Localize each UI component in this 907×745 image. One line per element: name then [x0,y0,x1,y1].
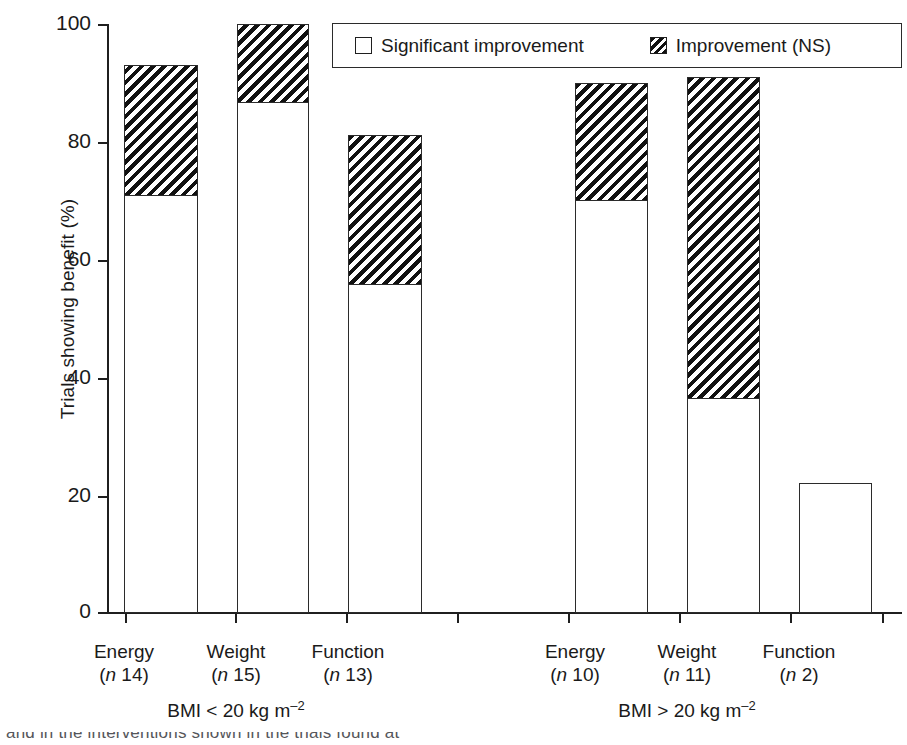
y-tick-label-0: 0 [79,599,91,623]
x-label-function-bmi-lt20: Function (n 13) [288,640,408,686]
y-axis-title: Trials showing benefit (%) [57,109,79,509]
y-axis-line [107,24,109,614]
x-label-weight-bmi-lt20: Weight (n 15) [176,640,296,686]
y-tick-label-60-wrap: 60 [98,260,99,262]
bar-energy-bmi-gt20[interactable] [575,83,648,613]
y-tick-0 [98,612,107,614]
legend-label-significant: Significant improvement [381,36,584,56]
x-label-name: Energy [64,640,184,663]
y-tick-label-60: 60 [68,247,91,271]
x-label-function-bmi-gt20: Function (n 2) [739,640,859,686]
y-tick-label-80-wrap: 80 [98,142,99,144]
bar-segment-ns [348,135,422,285]
bar-segment-ns [124,65,198,196]
group-label-bmi-lt20: BMI < 20 kg m–2 [116,700,356,722]
x-label-weight-bmi-gt20: Weight (n 11) [627,640,747,686]
y-tick-label-100: 100 [56,11,91,35]
x-tick-1 [235,614,237,623]
y-tick-100 [98,24,107,26]
bar-segment-ns [237,24,309,103]
y-tick-label-0-wrap: 0 [98,612,99,614]
x-label-n: (n 15) [176,663,296,686]
bar-weight-bmi-lt20[interactable] [237,24,309,613]
y-tick-20 [98,496,107,498]
bar-weight-bmi-gt20[interactable] [687,77,760,613]
y-tick-label-20-wrap: 20 [98,496,99,498]
y-tick-40 [98,378,107,380]
x-label-n: (n 11) [627,663,747,686]
bar-segment-significant [687,398,760,613]
x-label-n: (n 13) [288,663,408,686]
bar-function-bmi-gt20[interactable] [799,483,872,613]
y-tick-label-40-wrap: 40 [98,378,99,380]
group-label-text: BMI > 20 kg m [618,700,741,721]
y-tick-60 [98,260,107,262]
x-tick-5 [679,614,681,623]
y-tick-label-40: 40 [68,365,91,389]
bar-segment-significant [237,102,309,613]
x-tick-6 [790,614,792,623]
bar-segment-ns [687,77,760,399]
x-label-name: Function [739,640,859,663]
bar-segment-significant [124,195,198,613]
x-tick-7 [882,614,884,623]
x-label-energy-bmi-lt20: Energy (n 14) [64,640,184,686]
bar-segment-significant [575,200,648,613]
caption-partial-text: and in the interventions shown in the tr… [0,732,907,743]
bar-function-bmi-lt20[interactable] [348,135,422,613]
y-tick-label-20: 20 [68,483,91,507]
group-label-exponent: –2 [741,698,755,713]
bar-segment-significant [348,284,422,613]
bar-energy-bmi-lt20[interactable] [124,65,198,613]
x-label-name: Energy [515,640,635,663]
legend-label-ns: Improvement (NS) [676,36,831,56]
y-tick-80 [98,142,107,144]
y-tick-label-100-wrap: 100 [98,24,99,26]
x-tick-3 [457,614,459,623]
x-label-n: (n 14) [64,663,184,686]
legend-item-significant[interactable]: Significant improvement [355,36,584,56]
group-label-bmi-gt20: BMI > 20 kg m–2 [567,700,807,722]
stacked-bar-chart-figure: Trials showing benefit (%) 100 80 60 40 … [0,0,907,745]
x-label-name: Function [288,640,408,663]
x-label-name: Weight [627,640,747,663]
group-label-text: BMI < 20 kg m [167,700,290,721]
x-label-energy-bmi-gt20: Energy (n 10) [515,640,635,686]
x-label-name: Weight [176,640,296,663]
plot-area: 100 80 60 40 20 0 [107,24,902,613]
x-tick-4 [568,614,570,623]
x-axis-line [107,612,902,614]
legend-item-ns[interactable]: Improvement (NS) [650,36,831,56]
x-tick-0 [125,614,127,623]
legend-swatch-significant-icon [355,37,372,54]
x-label-n: (n 10) [515,663,635,686]
bar-segment-significant [799,483,872,613]
x-label-n: (n 2) [739,663,859,686]
legend-swatch-ns-icon [650,37,667,54]
caption-partial-line: and in the interventions shown in the tr… [0,732,907,745]
bar-segment-ns [575,83,648,201]
group-label-exponent: –2 [290,698,304,713]
legend: Significant improvement Improvement (NS) [332,23,902,68]
x-tick-2 [346,614,348,623]
y-tick-label-80: 80 [68,129,91,153]
